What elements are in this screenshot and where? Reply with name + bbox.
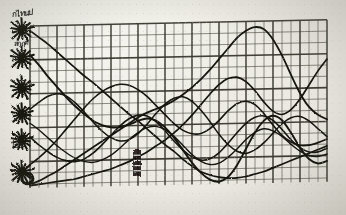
chart-plate xyxy=(0,0,346,215)
data-curves xyxy=(30,27,327,186)
graph-paper-grid xyxy=(30,20,327,188)
